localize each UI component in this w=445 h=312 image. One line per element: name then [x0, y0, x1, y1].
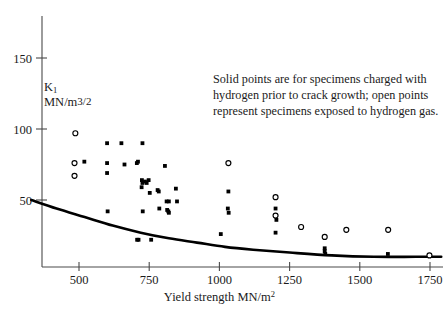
- x-tick-label: 1500: [347, 273, 372, 287]
- annotation-line-3: represent specimens exposed to hydrogen …: [213, 103, 439, 119]
- x-tick-label: 1000: [207, 273, 232, 287]
- data-point-open: [322, 234, 327, 239]
- data-point-solid: [157, 207, 161, 211]
- data-point-solid: [82, 160, 86, 164]
- threshold-curve: [31, 200, 441, 257]
- data-points-group: [72, 131, 432, 258]
- data-point-solid: [323, 252, 327, 256]
- data-point-solid: [105, 141, 109, 145]
- data-point-solid: [274, 207, 278, 211]
- data-point-open: [427, 253, 432, 258]
- data-point-solid: [148, 191, 152, 195]
- data-point-solid: [163, 164, 167, 168]
- data-point-open: [386, 227, 391, 232]
- data-point-open: [226, 161, 231, 166]
- data-point-solid: [147, 178, 151, 182]
- data-point-solid: [226, 190, 230, 194]
- data-point-solid: [226, 207, 230, 211]
- figure-container: 501001505007501000125015001750 Yield str…: [0, 0, 445, 312]
- data-point-solid: [227, 211, 231, 215]
- data-point-solid: [105, 171, 109, 175]
- x-axis-title-text: Yield strength MN/m2: [164, 289, 275, 304]
- x-tick-label: 500: [70, 273, 89, 287]
- y-axis-symbol-text: K: [44, 80, 53, 94]
- data-point-solid: [120, 141, 124, 145]
- data-point-solid: [274, 231, 278, 235]
- axes-group: [42, 16, 443, 267]
- data-point-solid: [137, 238, 141, 242]
- y-axis-symbol: K1: [44, 80, 91, 95]
- y-axis-units-text: MN/m: [44, 95, 77, 109]
- data-point-solid: [386, 252, 390, 256]
- x-tick-label: 750: [140, 273, 159, 287]
- x-tick-label: 1250: [277, 273, 302, 287]
- data-point-solid: [157, 190, 161, 194]
- data-point-solid: [167, 211, 171, 215]
- y-axis-symbol-subscript: 1: [53, 85, 57, 95]
- data-point-solid: [167, 200, 171, 204]
- annotation-line-2: hydrogen prior to crack growth; open poi…: [213, 87, 439, 103]
- data-point-open: [299, 224, 304, 229]
- scatter-plot: 501001505007501000125015001750 Yield str…: [0, 0, 445, 312]
- y-axis-label: K1 MN/m3/2: [44, 80, 91, 110]
- data-point-solid: [105, 161, 109, 165]
- x-tick-label: 1750: [418, 273, 443, 287]
- annotation-text: Solid points are for specimens charged w…: [213, 71, 439, 120]
- data-point-solid: [123, 163, 127, 167]
- data-point-solid: [140, 185, 144, 189]
- data-point-solid: [174, 187, 178, 191]
- annotation-line-1: Solid points are for specimens charged w…: [213, 71, 439, 87]
- data-point-solid: [106, 209, 110, 213]
- data-point-open: [72, 173, 77, 178]
- data-point-open: [72, 161, 77, 166]
- threshold-curve-path: [31, 200, 441, 257]
- data-point-open: [73, 131, 78, 136]
- y-axis-units-exponent: 3/2: [77, 95, 91, 108]
- data-point-open: [273, 213, 278, 218]
- y-tick-label: 100: [13, 123, 32, 137]
- data-point-solid: [219, 232, 223, 236]
- data-point-solid: [136, 160, 140, 164]
- data-point-solid: [175, 200, 179, 204]
- y-axis-units: MN/m3/2: [44, 95, 91, 110]
- y-tick-label: 150: [13, 52, 32, 66]
- data-point-open: [273, 195, 278, 200]
- data-point-solid: [149, 238, 153, 242]
- data-point-open: [344, 227, 349, 232]
- x-axis-title: Yield strength MN/m2: [164, 289, 275, 304]
- data-point-solid: [141, 141, 145, 145]
- data-point-solid: [141, 209, 145, 213]
